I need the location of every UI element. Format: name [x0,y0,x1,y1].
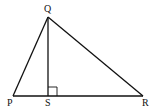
side-pq [13,17,48,96]
triangle-diagram: Q P S R [0,0,159,108]
side-qr [48,17,143,96]
right-angle-marker [48,87,57,96]
vertex-label-q: Q [44,3,52,14]
vertex-label-r: R [142,97,149,108]
vertex-label-s: S [45,97,51,108]
vertex-label-p: P [7,97,13,108]
